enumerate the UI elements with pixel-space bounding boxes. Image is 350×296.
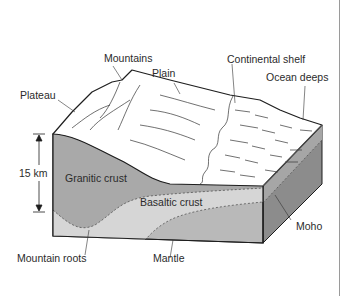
frame-border	[339, 0, 340, 296]
label-scale-15km: 15 km	[19, 168, 48, 179]
label-moho: Moho	[296, 221, 322, 232]
label-mountains: Mountains	[104, 53, 152, 64]
label-plateau: Plateau	[20, 90, 56, 101]
label-basaltic-crust: Basaltic crust	[140, 197, 202, 208]
label-continental-shelf: Continental shelf	[227, 54, 305, 65]
label-granitic-crust: Granitic crust	[65, 173, 127, 184]
label-plain: Plain	[152, 68, 175, 79]
label-mountain-roots: Mountain roots	[17, 253, 86, 264]
label-mantle: Mantle	[153, 253, 185, 264]
label-ocean-deeps: Ocean deeps	[266, 72, 328, 83]
